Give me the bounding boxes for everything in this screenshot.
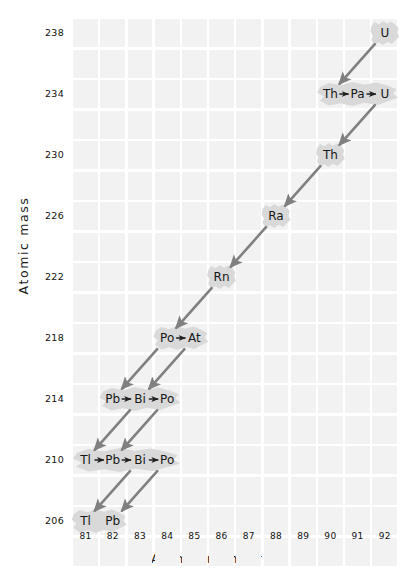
nuclide-node[interactable]: Pa (346, 85, 370, 103)
grid-cell (291, 294, 316, 322)
grid-cell (209, 294, 234, 322)
grid-cell (345, 324, 370, 352)
grid-cell (128, 263, 153, 291)
grid-cell (73, 111, 98, 139)
grid-cell (128, 172, 153, 200)
grid-cell (372, 294, 397, 322)
grid-cell (318, 172, 343, 200)
grid-cell (182, 385, 207, 413)
x-tick-label: 88 (264, 531, 288, 541)
grid-cell (236, 324, 261, 352)
grid-cell (73, 294, 98, 322)
grid-cell (155, 355, 180, 383)
grid-cell (264, 50, 289, 78)
grid-cell (372, 233, 397, 261)
nuclide-node[interactable]: Pb (101, 451, 125, 469)
nuclide-node[interactable]: Bi (128, 390, 152, 408)
grid-cell (372, 324, 397, 352)
nuclide-node[interactable]: Rn (210, 268, 234, 286)
grid-cell (209, 324, 234, 352)
grid-cell (372, 477, 397, 505)
x-tick-label: 81 (74, 531, 98, 541)
grid-cell (100, 202, 125, 230)
grid-cell (100, 80, 125, 108)
grid-cell (73, 538, 98, 566)
nuclide-node[interactable]: Th (318, 146, 342, 164)
grid-cell (128, 233, 153, 261)
grid-cell (236, 172, 261, 200)
nuclide-node[interactable]: At (182, 329, 206, 347)
grid-cell (209, 111, 234, 139)
nuclide-node[interactable]: Th (318, 85, 342, 103)
nuclide-node[interactable]: Pb (101, 512, 125, 530)
grid-cell (73, 355, 98, 383)
nuclide-node[interactable]: Tl (74, 512, 98, 530)
y-axis-title: Atomic mass (16, 191, 31, 301)
grid-cell (73, 202, 98, 230)
grid-cell (182, 111, 207, 139)
nuclide-node[interactable]: Po (155, 329, 179, 347)
grid-cell (236, 294, 261, 322)
grid-cell (345, 263, 370, 291)
nuclide-node[interactable]: U (373, 85, 397, 103)
nuclide-node[interactable]: Tl (74, 451, 98, 469)
y-tick-label: 214 (30, 393, 64, 404)
grid-cell (128, 80, 153, 108)
grid-cell (128, 19, 153, 47)
grid-cell (182, 233, 207, 261)
nuclide-node[interactable]: Bi (128, 451, 152, 469)
grid-cell (236, 263, 261, 291)
grid-cell (182, 416, 207, 444)
grid-cell (236, 111, 261, 139)
grid-cell (372, 385, 397, 413)
grid-cell (209, 19, 234, 47)
decay-chain-chart: Atomic mass Atomic number 23823423022622… (0, 0, 414, 587)
grid-cell (264, 263, 289, 291)
grid-cell (345, 385, 370, 413)
grid-cell (128, 202, 153, 230)
grid-cell (291, 50, 316, 78)
grid-cell (100, 172, 125, 200)
grid-cell (209, 446, 234, 474)
grid-cell (264, 111, 289, 139)
nuclide-node[interactable]: Ra (264, 207, 288, 225)
grid-cell (318, 202, 343, 230)
grid-cell (73, 50, 98, 78)
grid-cell (236, 446, 261, 474)
x-tick-label: 83 (128, 531, 152, 541)
grid-cell (209, 385, 234, 413)
grid-cell (372, 446, 397, 474)
grid-cell (182, 202, 207, 230)
grid-cell (345, 538, 370, 566)
grid-cell (264, 385, 289, 413)
y-tick-label: 234 (30, 88, 64, 99)
grid-cell (318, 385, 343, 413)
grid-cell (128, 355, 153, 383)
grid-cell (236, 355, 261, 383)
nuclide-node[interactable]: Pb (101, 390, 125, 408)
grid-cell (100, 233, 125, 261)
grid-cell (372, 202, 397, 230)
grid-cell (236, 80, 261, 108)
grid-cell (264, 538, 289, 566)
grid-cell (128, 50, 153, 78)
x-tick-label: 86 (210, 531, 234, 541)
grid-cell (100, 19, 125, 47)
grid-cell (209, 141, 234, 169)
grid-cell (209, 477, 234, 505)
grid-cell (73, 263, 98, 291)
grid-cell (155, 294, 180, 322)
grid-cell (318, 477, 343, 505)
grid-cell (345, 141, 370, 169)
nuclide-node[interactable]: Po (155, 451, 179, 469)
grid-cell (155, 233, 180, 261)
x-tick-label: 87 (237, 531, 261, 541)
grid-cell (128, 538, 153, 566)
nuclide-node[interactable]: U (373, 24, 397, 42)
grid-cell (264, 416, 289, 444)
grid-cell (291, 172, 316, 200)
grid-cell (182, 294, 207, 322)
grid-cell (100, 324, 125, 352)
grid-cell (291, 416, 316, 444)
nuclide-node[interactable]: Po (155, 390, 179, 408)
